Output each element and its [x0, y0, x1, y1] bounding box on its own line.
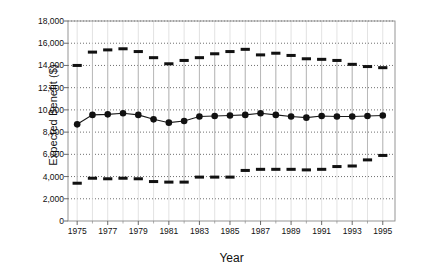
lower-bound-marker	[348, 165, 357, 168]
expected-benefit-point	[89, 112, 96, 119]
expected-benefit-point	[135, 112, 142, 119]
lower-bound-marker	[210, 176, 219, 179]
lower-bound-marker	[302, 168, 311, 171]
upper-bound-marker	[256, 53, 265, 56]
chart-plot-area	[0, 0, 422, 278]
chart-figure: Expected Benefit ($) 02,0004,0006,0008,0…	[0, 0, 422, 278]
upper-bound-marker	[286, 54, 295, 57]
upper-bound-marker	[225, 50, 234, 53]
upper-bound-marker	[134, 50, 143, 53]
lower-bound-marker	[271, 168, 280, 171]
expected-benefit-point	[166, 119, 173, 126]
upper-bound-marker	[103, 48, 112, 51]
lower-bound-marker	[103, 177, 112, 180]
lower-bound-marker	[180, 181, 189, 184]
expected-benefit-point	[379, 112, 386, 119]
lower-bound-marker	[164, 181, 173, 184]
expected-benefit-point	[150, 116, 157, 123]
lower-bound-marker	[134, 177, 143, 180]
lower-bound-marker	[363, 158, 372, 161]
expected-benefit-point	[74, 121, 81, 128]
lower-bound-marker	[378, 154, 387, 157]
upper-bound-marker	[73, 64, 82, 67]
expected-benefit-point	[349, 113, 356, 120]
lower-bound-marker	[118, 177, 127, 180]
expected-benefit-point	[318, 113, 325, 120]
upper-bound-marker	[363, 65, 372, 68]
lower-bound-marker	[286, 168, 295, 171]
expected-benefit-point	[104, 111, 111, 118]
upper-bound-marker	[378, 66, 387, 69]
lower-bound-marker	[149, 180, 158, 183]
upper-bound-marker	[88, 51, 97, 54]
expected-benefit-point	[227, 112, 234, 119]
expected-benefit-point	[257, 110, 264, 117]
lower-bound-marker	[73, 182, 82, 185]
expected-benefit-point	[242, 112, 249, 119]
upper-bound-marker	[271, 52, 280, 55]
upper-bound-marker	[332, 59, 341, 62]
lower-bound-marker	[256, 168, 265, 171]
lower-bound-marker	[241, 169, 250, 172]
upper-bound-marker	[118, 47, 127, 50]
upper-bound-marker	[164, 62, 173, 65]
upper-bound-marker	[302, 57, 311, 60]
upper-bound-marker	[210, 52, 219, 55]
expected-benefit-point	[364, 113, 371, 120]
upper-bound-marker	[180, 59, 189, 62]
lower-bound-marker	[195, 176, 204, 179]
upper-bound-marker	[149, 56, 158, 59]
lower-bound-marker	[88, 177, 97, 180]
lower-bound-marker	[332, 165, 341, 168]
expected-benefit-point	[303, 114, 310, 121]
expected-benefit-point	[120, 110, 127, 117]
expected-benefit-point	[181, 118, 188, 125]
lower-bound-marker	[225, 176, 234, 179]
expected-benefit-point	[288, 113, 295, 120]
expected-benefit-point	[273, 112, 280, 119]
upper-bound-marker	[348, 63, 357, 66]
lower-bound-marker	[317, 168, 326, 171]
upper-bound-marker	[195, 56, 204, 59]
expected-benefit-point	[334, 113, 341, 120]
upper-bound-marker	[317, 58, 326, 61]
upper-bound-marker	[241, 48, 250, 51]
expected-benefit-point	[211, 113, 218, 120]
expected-benefit-point	[196, 113, 203, 120]
x-axis-title: Year	[68, 251, 395, 265]
